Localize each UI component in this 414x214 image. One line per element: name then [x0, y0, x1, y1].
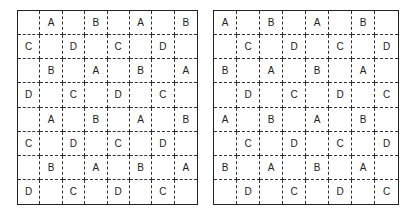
grid-cell [18, 11, 40, 35]
grid-cell: A [85, 59, 107, 83]
grid-cell [175, 132, 197, 156]
grid-cell: B [175, 11, 197, 35]
grid-cell [40, 35, 62, 59]
grid-cell: A [175, 156, 197, 180]
grid-cell: C [63, 180, 85, 204]
grid-cell: B [260, 11, 283, 35]
grid-cell [108, 11, 130, 35]
grid-cell: B [260, 108, 283, 132]
grid-cell [375, 11, 398, 35]
grid-cell: B [352, 108, 375, 132]
grid-cell [214, 132, 237, 156]
grid-cell: B [352, 11, 375, 35]
grid-cell: C [108, 132, 130, 156]
grid-cell [283, 11, 306, 35]
grid-cell: B [130, 59, 152, 83]
grid-cell [40, 180, 62, 204]
grid-cell: C [375, 180, 398, 204]
grid-cell [40, 132, 62, 156]
grid-cell [130, 83, 152, 107]
grid-cell [237, 156, 260, 180]
grid-cell: D [283, 35, 306, 59]
grid-cell: D [63, 132, 85, 156]
grid-cell [329, 11, 352, 35]
grid-cell: A [352, 156, 375, 180]
grid-cell: B [306, 156, 329, 180]
grid-cell: A [260, 156, 283, 180]
grid-cell: C [237, 35, 260, 59]
grid-cell [63, 59, 85, 83]
grid-cell: A [214, 108, 237, 132]
grid-cell [352, 83, 375, 107]
grid-cell: C [18, 132, 40, 156]
grid-cell [329, 156, 352, 180]
grid-cell: D [108, 180, 130, 204]
grid-cell [18, 156, 40, 180]
grid-cell: C [237, 132, 260, 156]
grid-cell [152, 59, 174, 83]
grid-cell [108, 59, 130, 83]
grid-cell [108, 156, 130, 180]
grid-cell [375, 156, 398, 180]
grid-cell [152, 11, 174, 35]
grid-cell: B [175, 108, 197, 132]
grid-cell [260, 132, 283, 156]
grid-cell [175, 83, 197, 107]
grid-cell: A [130, 11, 152, 35]
grid-cell: D [18, 180, 40, 204]
grid-cell: B [40, 59, 62, 83]
grid-cell: C [283, 180, 306, 204]
grid-cell [85, 132, 107, 156]
grid-cell: D [329, 180, 352, 204]
grid-cell [152, 156, 174, 180]
grid-cell [40, 83, 62, 107]
grid-cell [175, 35, 197, 59]
grid-cell: B [214, 156, 237, 180]
grid-cell [130, 132, 152, 156]
grid-cell: D [283, 132, 306, 156]
grid-cell: A [175, 59, 197, 83]
grid-cell: D [152, 132, 174, 156]
grid-cell [306, 180, 329, 204]
grid-cell [85, 35, 107, 59]
grid-cell [306, 35, 329, 59]
grid-cell [214, 180, 237, 204]
grid-cell: C [18, 35, 40, 59]
grid-cell [214, 83, 237, 107]
grid-cell: D [152, 35, 174, 59]
grid-cell: A [40, 11, 62, 35]
grid-cell [237, 108, 260, 132]
grid-cell [237, 11, 260, 35]
grid-cell [375, 59, 398, 83]
grid-cell [260, 35, 283, 59]
grid-cell [283, 156, 306, 180]
right-grid: ABABCDCDBABADCDCABABCDCDBABADCDC [213, 10, 399, 205]
grid-cell: C [152, 180, 174, 204]
grid-cell [283, 108, 306, 132]
grid-cell [18, 108, 40, 132]
grid-cell: D [63, 35, 85, 59]
grid-cell [306, 83, 329, 107]
grid-cell [108, 108, 130, 132]
grid-cell: A [306, 108, 329, 132]
grid-cell [130, 35, 152, 59]
grid-cell: B [85, 108, 107, 132]
grid-cell [352, 180, 375, 204]
grid-cell [18, 59, 40, 83]
grid-cell: A [306, 11, 329, 35]
grid-cell: A [130, 108, 152, 132]
grid-cell: D [375, 35, 398, 59]
grid-cell: D [329, 83, 352, 107]
grid-cell: A [214, 11, 237, 35]
grid-cell [352, 35, 375, 59]
grid-cell [306, 132, 329, 156]
grid-cell: C [63, 83, 85, 107]
grid-cell: B [306, 59, 329, 83]
grid-cell: A [40, 108, 62, 132]
grid-cell [260, 180, 283, 204]
grid-cell: D [108, 83, 130, 107]
grid-cell: B [130, 156, 152, 180]
grid-cell: C [152, 83, 174, 107]
grid-cell: C [108, 35, 130, 59]
grid-cell [85, 83, 107, 107]
